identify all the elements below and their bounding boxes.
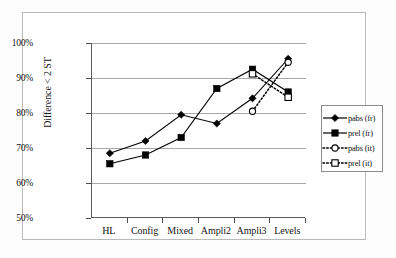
legend-symbol-icon	[322, 111, 348, 125]
data-point-marker	[214, 85, 220, 91]
data-point-marker	[106, 150, 113, 157]
legend-marker	[332, 144, 338, 150]
x-axis-tick-mark	[127, 218, 128, 223]
y-axis-tick-label: 70%	[0, 143, 33, 153]
x-axis-tick-label: Levels	[260, 225, 314, 237]
data-point-marker	[249, 71, 255, 77]
chart-screenshot: Difference < 2 ST 100%90%80%70%60%50% HL…	[0, 0, 396, 258]
legend-symbol-icon	[322, 156, 348, 170]
x-axis-tick-mark	[198, 218, 199, 223]
x-axis-tick-mark	[234, 218, 235, 223]
legend-symbol-icon	[322, 126, 348, 140]
chart-legend: pabs (fr)prel (fr)pabs (it)prel (it)	[321, 105, 383, 172]
legend-marker	[332, 129, 338, 135]
legend-item-label: pabs (fr)	[348, 113, 375, 123]
data-point-marker	[285, 94, 291, 100]
x-axis-tick-mark	[305, 218, 306, 223]
plot-area	[91, 43, 305, 218]
legend-key-filled-diamond-icon	[322, 111, 348, 125]
legend-key-open-square-icon	[322, 156, 348, 170]
legend-marker	[332, 159, 338, 165]
legend-symbol-icon	[322, 141, 348, 155]
legend-item-label: prel (fr)	[348, 128, 373, 138]
y-axis-tick-label: 90%	[0, 73, 33, 83]
data-point-marker	[178, 134, 184, 140]
legend-item-label: prel (it)	[348, 158, 372, 168]
legend-item: pabs (it)	[322, 140, 382, 155]
legend-item: prel (fr)	[322, 125, 382, 140]
data-point-marker	[249, 108, 255, 114]
y-axis-tick-label: 60%	[0, 178, 33, 188]
series-plot	[92, 43, 306, 218]
series-line	[110, 69, 288, 164]
legend-item: pabs (fr)	[322, 110, 382, 125]
x-axis-tick-mark	[162, 218, 163, 223]
data-point-marker	[285, 59, 291, 65]
legend-marker	[331, 114, 338, 121]
y-axis-label: Difference < 2 ST	[42, 38, 53, 148]
data-point-marker	[213, 120, 220, 127]
x-axis-tick-mark	[269, 218, 270, 223]
legend-key-filled-square-icon	[322, 126, 348, 140]
legend-item: prel (it)	[322, 155, 382, 170]
data-point-marker	[107, 161, 113, 167]
y-axis-tick-label: 80%	[0, 108, 33, 118]
chart-frame: Difference < 2 ST 100%90%80%70%60%50% HL…	[22, 12, 366, 240]
series-line	[110, 59, 288, 154]
legend-item-label: pabs (it)	[348, 143, 374, 153]
y-axis-tick-label: 100%	[0, 38, 33, 48]
y-axis-tick-label: 50%	[0, 213, 33, 223]
legend-key-open-circle-icon	[322, 141, 348, 155]
data-point-marker	[142, 152, 148, 158]
series-0	[106, 55, 292, 157]
series-line	[253, 62, 289, 111]
y-axis-tick-mark	[86, 218, 91, 219]
